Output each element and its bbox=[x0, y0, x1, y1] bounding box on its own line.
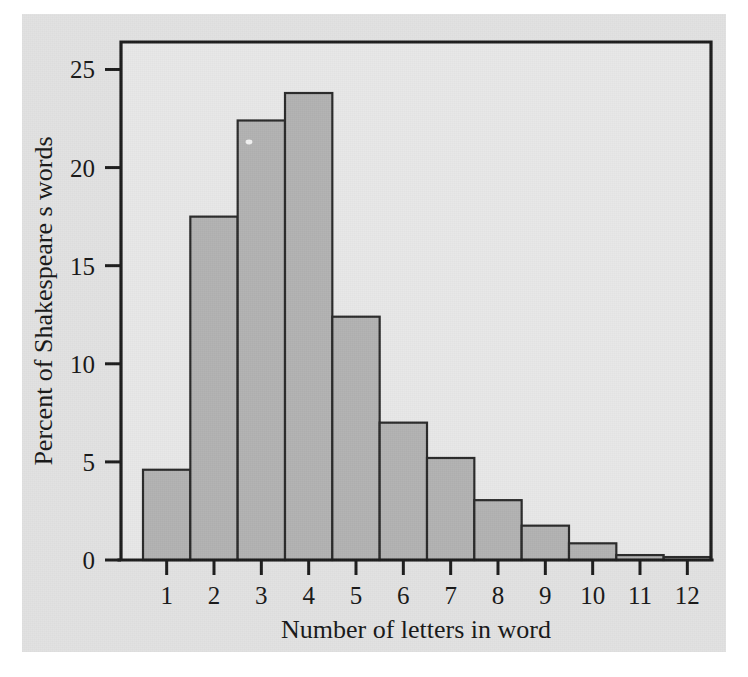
bar bbox=[474, 500, 521, 560]
y-tick-label: 10 bbox=[70, 351, 95, 378]
bar bbox=[143, 470, 190, 560]
y-tick-label: 5 bbox=[83, 449, 96, 476]
bar bbox=[285, 93, 332, 560]
bar bbox=[569, 543, 616, 560]
y-tick-label: 20 bbox=[70, 155, 95, 182]
bar bbox=[238, 120, 285, 560]
x-tick-label: 4 bbox=[302, 582, 315, 609]
x-tick-label: 9 bbox=[539, 582, 552, 609]
figure-page: 0510152025 123456789101112 Number of let… bbox=[22, 14, 726, 652]
x-tick-label: 10 bbox=[580, 582, 605, 609]
bar bbox=[190, 217, 237, 560]
x-tick-label: 11 bbox=[628, 582, 652, 609]
x-ticks-group bbox=[167, 560, 688, 575]
y-tick-label: 0 bbox=[83, 547, 96, 574]
bar bbox=[427, 458, 474, 560]
scan-speck bbox=[246, 140, 253, 145]
x-tick-label: 1 bbox=[160, 582, 173, 609]
x-tick-label: 2 bbox=[208, 582, 221, 609]
x-tick-label: 5 bbox=[350, 582, 363, 609]
y-tick-label: 25 bbox=[70, 56, 95, 83]
bar bbox=[380, 423, 427, 560]
histogram-chart: 0510152025 123456789101112 Number of let… bbox=[22, 14, 726, 652]
y-tick-label: 15 bbox=[70, 253, 95, 280]
y-ticks-group bbox=[105, 69, 121, 560]
x-tick-label: 7 bbox=[444, 582, 457, 609]
bar bbox=[332, 317, 379, 560]
y-axis-title: Percent of Shakespeare s words bbox=[29, 136, 58, 465]
x-tick-label: 6 bbox=[397, 582, 410, 609]
bar bbox=[522, 526, 569, 560]
x-tick-labels: 123456789101112 bbox=[160, 582, 699, 609]
x-tick-label: 12 bbox=[675, 582, 700, 609]
x-tick-label: 8 bbox=[492, 582, 505, 609]
x-tick-label: 3 bbox=[255, 582, 268, 609]
x-axis-title: Number of letters in word bbox=[281, 615, 551, 644]
y-tick-labels: 0510152025 bbox=[70, 56, 95, 574]
